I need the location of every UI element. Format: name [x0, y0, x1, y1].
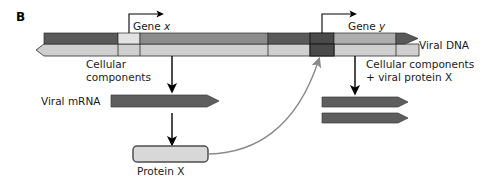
dna-segment-gene-y-body	[334, 33, 396, 44]
dna-segment-operator-y	[310, 33, 334, 44]
viral-mrna-primary	[111, 95, 219, 107]
label-protein-x: Protein X	[137, 165, 184, 178]
label-viral-dna: Viral DNA	[419, 39, 469, 52]
panel-letter: B	[16, 10, 25, 24]
viral-dna-duplex	[36, 33, 419, 56]
dna-operator-lower	[310, 44, 334, 56]
diagram-canvas	[0, 0, 487, 181]
label-gene-y: Gene y	[348, 20, 385, 33]
label-gene-x: Gene x	[133, 20, 170, 33]
label-gene-x-word: Gene	[133, 20, 161, 32]
viral-mrna-secondary-1	[322, 97, 408, 107]
dna-right-arrowhead	[396, 33, 418, 44]
dna-segment-gene-x-body	[140, 33, 268, 44]
protein-x-feedback-arrow	[209, 62, 318, 154]
dna-segment-upstream-dark	[44, 33, 118, 44]
protein-x-box	[133, 146, 208, 162]
label-cellular-components-left: Cellular components	[86, 58, 151, 83]
viral-mrna-secondary-2	[322, 113, 408, 123]
dna-segment-spacer-dark	[268, 33, 310, 44]
label-cellular-components-right: Cellular components + viral protein X	[366, 58, 474, 83]
label-gene-y-symbol: y	[379, 20, 385, 32]
dna-top-strand	[44, 33, 418, 44]
dna-bottom-strand	[36, 44, 419, 56]
label-gene-y-word: Gene	[348, 20, 376, 32]
figure-panel-b: B Gene x Gene y Viral DNA Cellular compo…	[0, 0, 487, 181]
label-gene-x-symbol: x	[164, 20, 170, 32]
dna-segment-promoter-x	[118, 33, 140, 44]
label-viral-mrna: Viral mRNA	[41, 95, 100, 108]
